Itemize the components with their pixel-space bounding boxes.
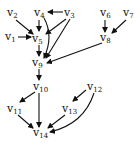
node-v7: v7	[122, 6, 134, 20]
node-v4: v4	[33, 6, 45, 20]
node-v3: v3	[63, 6, 75, 20]
edge-v2-to-v5	[16, 20, 33, 34]
edge-v11-to-v14	[18, 115, 33, 128]
node-v14: v14	[32, 126, 49, 140]
edge-v13-to-v14	[48, 115, 65, 128]
edge-v4-to-v9	[44, 18, 49, 58]
node-v5: v5	[31, 32, 43, 46]
edge-v7-to-v8	[112, 20, 126, 33]
node-v10: v10	[32, 80, 48, 94]
edge-v10-to-v11	[20, 92, 35, 102]
node-v9: v9	[31, 56, 43, 70]
edge-v12-to-v13	[73, 90, 86, 101]
node-v11: v11	[6, 102, 22, 116]
node-v12: v12	[86, 80, 102, 94]
dependency-graph: v1v2v3v4v5v6v7v8v9v10v11v12v13v14	[0, 0, 140, 145]
node-v8: v8	[99, 31, 111, 45]
edge-v8-to-v9	[47, 43, 102, 63]
node-v13: v13	[61, 102, 77, 116]
node-v6: v6	[99, 6, 111, 20]
node-v1: v1	[4, 30, 16, 44]
node-v2: v2	[6, 6, 18, 20]
